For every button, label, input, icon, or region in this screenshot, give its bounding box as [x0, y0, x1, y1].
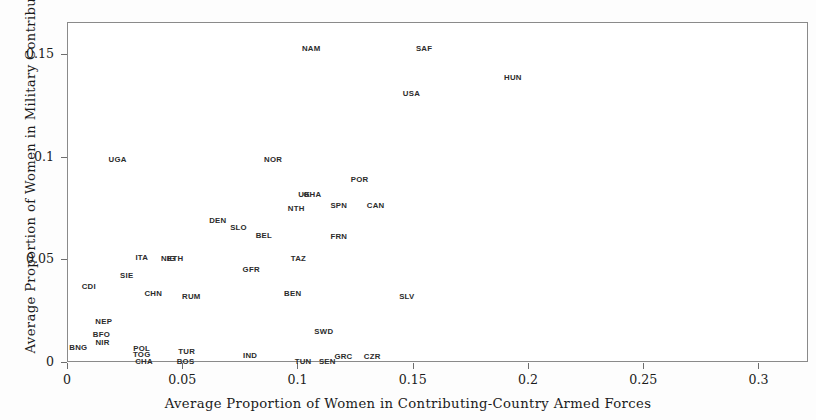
x-tick-mark	[528, 363, 529, 369]
data-point-label: UGA	[109, 156, 127, 164]
x-tick-label: 0.1	[262, 372, 332, 387]
data-point-label: CHN	[144, 290, 162, 298]
data-point-label: GHA	[303, 191, 321, 199]
x-tick-mark	[413, 363, 414, 369]
plot-area-frame: NAMSAFHUNUSAUGANORPORUKGHASPNCANNTHDENSL…	[67, 22, 808, 362]
data-point-label: CDI	[82, 283, 96, 291]
data-point-label: SLO	[230, 225, 247, 233]
data-point-label: SAF	[416, 45, 432, 53]
y-tick-label: 0.05	[2, 251, 54, 266]
x-tick-mark	[758, 363, 759, 369]
data-point-label: GRC	[334, 353, 352, 361]
x-tick-label: 0.05	[147, 372, 217, 387]
x-tick-label: 0.15	[378, 372, 448, 387]
data-point-label: HUN	[504, 74, 522, 82]
x-tick-mark	[67, 363, 68, 369]
data-point-label: GFR	[243, 266, 260, 274]
data-point-label: NTH	[288, 205, 305, 213]
data-point-label: SEN	[319, 358, 336, 366]
data-point-label: FRN	[330, 233, 347, 241]
y-tick-label: 0.1	[2, 149, 54, 164]
data-point-label: USA	[403, 90, 420, 98]
x-tick-mark	[643, 363, 644, 369]
data-point-label: CHA	[135, 358, 153, 366]
data-point-label: NEP	[95, 318, 112, 326]
data-point-label: BOS	[177, 358, 195, 366]
x-tick-label: 0.3	[723, 372, 793, 387]
x-tick-label: 0	[32, 372, 102, 387]
data-point-label: SWD	[314, 328, 333, 336]
data-point-label: RUM	[182, 293, 201, 301]
data-point-label: NIR	[95, 340, 109, 348]
data-point-label: CAN	[367, 203, 385, 211]
x-axis-title: Average Proportion of Women in Contribut…	[0, 396, 816, 411]
x-tick-label: 0.25	[608, 372, 678, 387]
data-point-label: BEN	[284, 290, 301, 298]
scatter-plot-figure: Average Proportion of Women in Military …	[0, 0, 816, 420]
data-point-label: TUR	[178, 348, 195, 356]
data-point-label: POR	[351, 176, 369, 184]
data-point-label: NOR	[264, 156, 282, 164]
y-tick-label: 0	[2, 354, 54, 369]
x-tick-label: 0.2	[493, 372, 563, 387]
data-point-label: SIE	[120, 272, 133, 280]
data-point-label: ITA	[135, 254, 148, 262]
data-point-label: NAM	[302, 45, 321, 53]
data-point-label: CZR	[364, 353, 381, 361]
data-point-label: ETH	[167, 255, 183, 263]
data-point-label: TAZ	[291, 255, 306, 263]
data-point-label: SPN	[330, 203, 347, 211]
data-point-label: SLV	[399, 293, 414, 301]
data-point-label: BNG	[69, 344, 87, 352]
y-tick-label: 0.15	[2, 46, 54, 61]
data-point-label: IND	[243, 352, 257, 360]
data-point-label: DEN	[209, 217, 226, 225]
data-point-label: BEL	[256, 232, 272, 240]
data-point-label: TUN	[295, 358, 312, 366]
